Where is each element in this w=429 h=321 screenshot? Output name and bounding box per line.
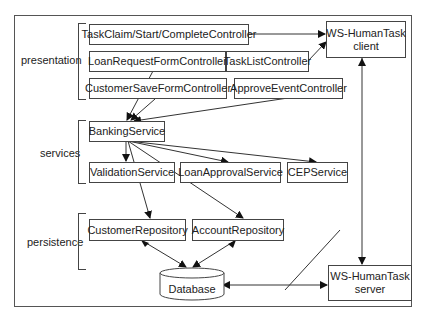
account-repository-box: AccountRepository <box>192 219 284 241</box>
task-claim-controller-box: TaskClaim/Start/CompleteController <box>89 24 249 45</box>
task-list-controller-box: TaskListController <box>226 51 309 72</box>
database-label: Database <box>160 283 224 295</box>
loan-request-form-controller-box: LoanRequestFormController <box>89 51 226 72</box>
validation-service-box: ValidationService <box>89 162 175 183</box>
ws-humantask-server-box: WS-HumanTask server <box>328 265 412 301</box>
customer-save-form-controller-box: CustomerSaveFormController <box>89 78 227 99</box>
banking-service-box: BankingService <box>89 121 165 142</box>
customer-repository-box: CustomerRepository <box>89 219 186 241</box>
client-label-line2: client <box>353 40 379 53</box>
approve-event-controller-box: ApproveEventController <box>234 78 343 99</box>
server-label-line2: server <box>355 283 386 296</box>
server-label-line1: WS-HumanTask <box>330 270 409 283</box>
client-label-line1: WS-HumanTask <box>326 27 405 40</box>
ws-humantask-client-box: WS-HumanTask client <box>326 21 406 58</box>
cep-service-box: CEPService <box>287 162 348 183</box>
loan-approval-service-box: LoanApprovalService <box>180 162 281 183</box>
